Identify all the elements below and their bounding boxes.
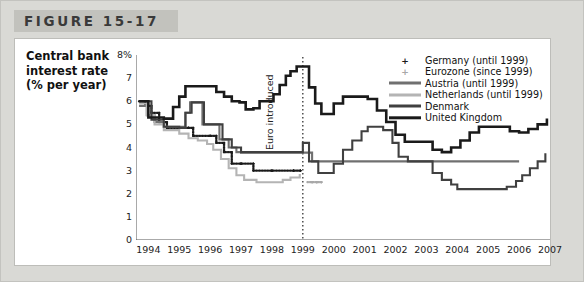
legend-item: Netherlands (until 1999) bbox=[389, 89, 543, 100]
legend-swatch-icon bbox=[389, 101, 421, 112]
x-axis-tick-label: 2003 bbox=[414, 244, 438, 255]
y-axis-tick-labels: 012345678% bbox=[108, 55, 132, 240]
marker bbox=[320, 181, 322, 183]
y-axis-tick-label: 0 bbox=[126, 234, 132, 245]
cross-icon: + bbox=[401, 56, 409, 65]
legend-label: United Kingdom bbox=[425, 112, 502, 123]
x-axis-tick-label: 1998 bbox=[260, 244, 284, 255]
legend-swatch-icon: + bbox=[389, 66, 421, 77]
x-axis-tick-label: 2002 bbox=[383, 244, 407, 255]
y-axis-tick-label: 1 bbox=[126, 211, 132, 222]
x-axis-tick-label: 2006 bbox=[507, 244, 531, 255]
y-axis-tick-label: 2 bbox=[126, 188, 132, 199]
legend-item: +Eurozone (since 1999) bbox=[389, 66, 543, 77]
x-axis-tick-labels: 1994199519961997199819992000200120022003… bbox=[136, 244, 556, 258]
y-axis-tick-label: 3 bbox=[126, 165, 132, 176]
y-axis-tick-label: 8% bbox=[117, 49, 132, 60]
x-axis-tick-label: 1999 bbox=[291, 244, 315, 255]
figure-card: FIGURE 15-17 Central bank interest rate … bbox=[0, 0, 584, 282]
line-icon bbox=[389, 82, 421, 85]
x-axis-tick-label: 1995 bbox=[167, 244, 191, 255]
chart-legend: +Germany (until 1999)+Eurozone (since 19… bbox=[389, 55, 543, 123]
y-axis-tick-label: 4 bbox=[126, 142, 132, 153]
x-axis-tick-label: 2004 bbox=[445, 244, 469, 255]
legend-item: Denmark bbox=[389, 101, 543, 112]
x-axis-tick-label: 1994 bbox=[136, 244, 160, 255]
legend-swatch-icon bbox=[389, 78, 421, 89]
legend-swatch-icon bbox=[389, 112, 421, 123]
cross-icon: + bbox=[401, 68, 409, 77]
series-markers-1 bbox=[306, 181, 322, 183]
legend-swatch-icon: + bbox=[389, 55, 421, 66]
line-icon bbox=[389, 93, 421, 96]
euro-introduced-label: Euro introduced bbox=[264, 74, 275, 150]
legend-label: Austria (until 1999) bbox=[425, 78, 518, 89]
legend-label: Eurozone (since 1999) bbox=[425, 66, 533, 77]
x-axis-tick-label: 1997 bbox=[229, 244, 253, 255]
y-axis-tick-label: 7 bbox=[126, 72, 132, 83]
x-axis-tick-label: 2001 bbox=[353, 244, 377, 255]
figure-title: FIGURE 15-17 bbox=[24, 13, 159, 29]
legend-item: +Germany (until 1999) bbox=[389, 55, 543, 66]
legend-swatch-icon bbox=[389, 89, 421, 100]
y-axis-tick-label: 6 bbox=[126, 95, 132, 106]
legend-label: Denmark bbox=[425, 101, 469, 112]
x-axis-tick-label: 1996 bbox=[198, 244, 222, 255]
legend-label: Germany (until 1999) bbox=[425, 55, 528, 66]
legend-label: Netherlands (until 1999) bbox=[425, 89, 543, 100]
legend-item: United Kingdom bbox=[389, 112, 543, 123]
y-axis-tick-label: 5 bbox=[126, 118, 132, 129]
line-icon bbox=[389, 116, 421, 119]
x-axis-tick-label: 2000 bbox=[322, 244, 346, 255]
x-axis-tick-label: 2005 bbox=[476, 244, 500, 255]
line-icon bbox=[389, 105, 421, 108]
legend-item: Austria (until 1999) bbox=[389, 78, 543, 89]
x-axis-tick-label: 2007 bbox=[538, 244, 562, 255]
